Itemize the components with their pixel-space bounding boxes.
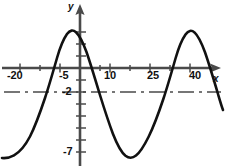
x-tick-label-40: 40 — [189, 70, 201, 81]
y-tick-label-neg7: -7 — [63, 146, 72, 157]
graph-figure: -20 -5 10 25 40 x y -2 -7 — [0, 0, 225, 166]
coordinate-plane — [0, 0, 225, 166]
x-tick-label-25: 25 — [147, 70, 159, 81]
cosine-curve — [2, 31, 223, 159]
x-tick-label-neg5: -5 — [59, 70, 68, 81]
x-tick-label-neg20: -20 — [7, 70, 22, 81]
y-axis-label: y — [68, 2, 73, 12]
x-tick-label-10: 10 — [104, 70, 116, 81]
y-axis — [75, 4, 86, 166]
x-axis-label: x — [213, 74, 218, 84]
y-tick-label-neg2: -2 — [62, 86, 71, 97]
